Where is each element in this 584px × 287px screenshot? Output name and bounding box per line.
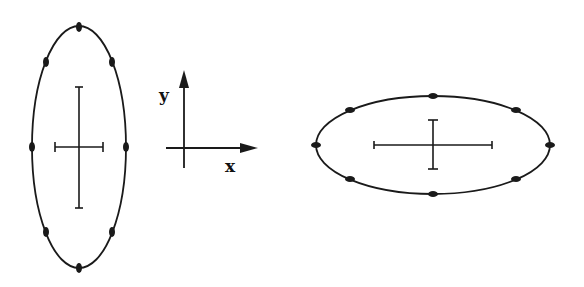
marker-dot (311, 142, 321, 148)
marker-dot (511, 176, 521, 182)
marker-dot (545, 142, 555, 148)
marker-dot (76, 22, 82, 32)
marker-dot (76, 263, 82, 273)
marker-dot (345, 107, 355, 113)
axes-group (166, 70, 258, 168)
x-axis-label: x (225, 156, 236, 176)
marker-dot (109, 227, 115, 237)
x-arrowhead-icon (240, 143, 258, 153)
right-ellipse-group (311, 93, 555, 197)
marker-dot (428, 93, 438, 99)
marker-dot (43, 227, 49, 237)
y-axis-label: y (158, 85, 170, 105)
marker-dot (511, 107, 521, 113)
marker-dot (123, 142, 129, 152)
marker-dot (428, 191, 438, 197)
marker-dot (345, 176, 355, 182)
right-cross (374, 120, 492, 169)
marker-dot (109, 57, 115, 67)
diagram-canvas: y x (0, 0, 584, 287)
left-cross (55, 87, 103, 208)
left-ellipse-group (29, 22, 129, 273)
marker-dot (43, 57, 49, 67)
y-arrowhead-icon (179, 70, 189, 88)
marker-dot (29, 142, 35, 152)
